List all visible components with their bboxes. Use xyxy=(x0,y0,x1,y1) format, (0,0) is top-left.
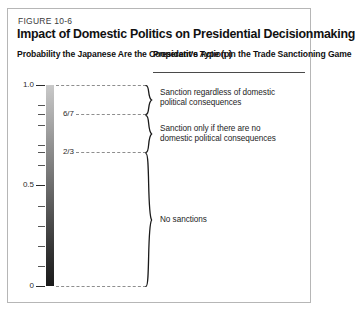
brace-region-sanction-conditional xyxy=(144,115,154,153)
axis-tick-0-1 xyxy=(38,266,45,267)
axis-label-2-3: 2/3 xyxy=(58,147,74,156)
axis-label-1-0: 1.0 xyxy=(16,80,34,89)
figure-label: FIGURE 10-6 xyxy=(18,16,72,26)
leader-line-6-7 xyxy=(76,114,146,115)
axis-tick-0-9 xyxy=(38,105,45,106)
axis-label-0: 0 xyxy=(16,281,34,290)
axis-tick-0-3 xyxy=(38,226,45,227)
axis-tick-0-8 xyxy=(38,125,45,126)
axis-tick-0 xyxy=(36,286,45,287)
leader-line-1-0 xyxy=(56,85,146,86)
axis-tick-0-4 xyxy=(38,206,45,207)
figure-frame: FIGURE 10-6 Impact of Domestic Politics … xyxy=(7,8,311,303)
axis-tick-6-7 xyxy=(38,114,45,115)
annotation-sanction-conditional: Sanction only if there are no domestic p… xyxy=(160,124,276,144)
figure-title: Impact of Domestic Politics on President… xyxy=(17,27,355,41)
axis-label-0-5: 0.5 xyxy=(16,180,34,189)
axis-tick-0-5 xyxy=(36,185,45,186)
axis-tick-1-0 xyxy=(36,85,45,86)
right-header-rule xyxy=(153,72,305,73)
axis-label-6-7: 6/7 xyxy=(58,109,74,118)
brace-region-sanction-always xyxy=(144,85,154,115)
leader-line-2-3 xyxy=(76,152,146,153)
axis-tick-2-3 xyxy=(38,152,45,153)
leader-line-0 xyxy=(56,286,146,287)
axis-tick-0-7 xyxy=(38,145,45,146)
probability-gradient-bar xyxy=(46,85,54,286)
axis-tick-0-2 xyxy=(38,246,45,247)
annotation-no-sanctions: No sanctions xyxy=(160,215,207,225)
annotation-sanction-always: Sanction regardless of domestic politica… xyxy=(160,88,275,108)
brace-region-no-sanctions xyxy=(144,153,154,287)
axis-tick-0-6 xyxy=(38,165,45,166)
right-column-header: President's Action in the Trade Sanction… xyxy=(153,49,351,60)
